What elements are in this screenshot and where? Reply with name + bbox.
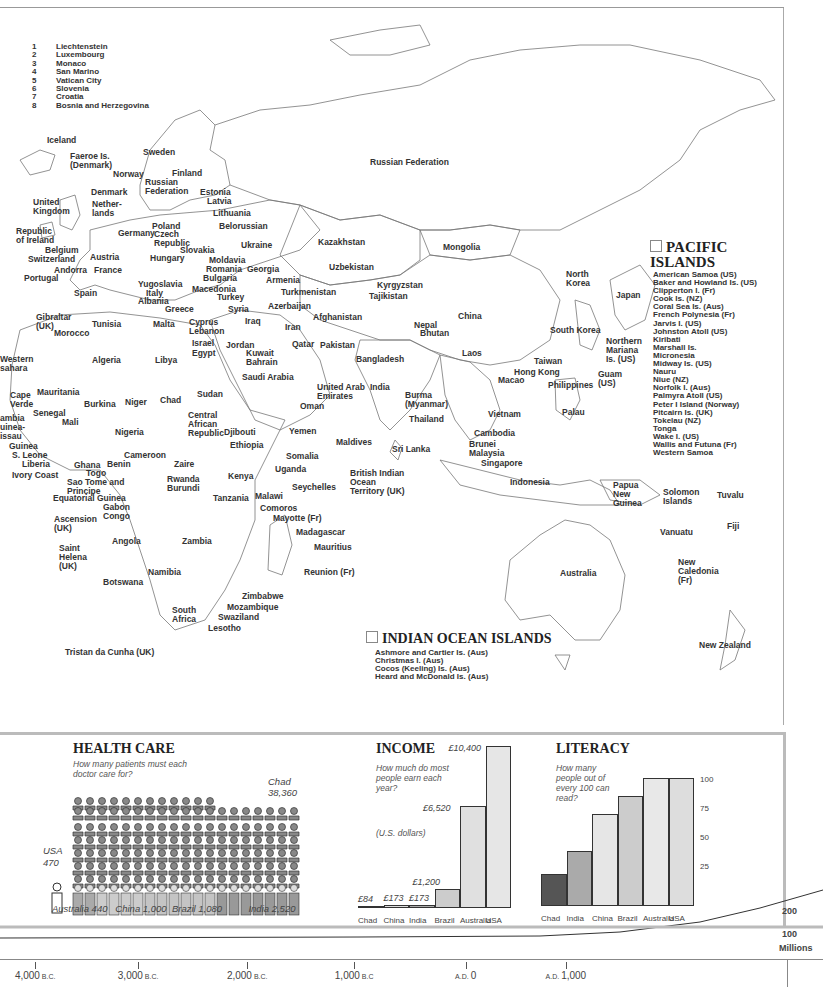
country-label: Saint Helena (UK)	[59, 544, 87, 571]
country-label: Vietnam	[488, 410, 521, 419]
country-label: Papua New Guinea	[613, 481, 642, 508]
country-label: Pakistan	[320, 341, 355, 350]
bar-value-label: £10,400	[449, 743, 482, 753]
country-label: Latvia	[207, 197, 232, 206]
country-label: Tanzania	[213, 494, 249, 503]
map-frame-top	[0, 7, 784, 8]
key-list-item: 6Slovenia	[32, 85, 149, 93]
country-label: Iceland	[47, 136, 76, 145]
country-label: Egypt	[192, 349, 216, 358]
country-label: New Caledonia (Fr)	[678, 558, 719, 585]
key-list-item: 8Bosnia and Herzegovina	[32, 102, 149, 110]
country-label: Armenia	[266, 276, 300, 285]
country-label: Nigeria	[115, 428, 144, 437]
country-label: France	[94, 266, 122, 275]
country-label: Zimbabwe	[242, 592, 284, 601]
country-label: Ukraine	[241, 241, 272, 250]
pacific-islands-list: American Samoa (US)Baker and Howland Is.…	[653, 271, 757, 457]
country-label: Singapore	[481, 459, 523, 468]
country-label: Turkmenistan	[281, 288, 336, 297]
country-label: Senegal	[33, 409, 66, 418]
country-label: Northern Mariana Is. (US)	[606, 337, 642, 364]
country-label: Belorussian	[219, 222, 268, 231]
country-label: Guam (US)	[598, 370, 622, 388]
country-label: Western sahara	[0, 355, 33, 373]
country-label: Liberia	[22, 460, 50, 469]
country-label: Morocco	[54, 329, 89, 338]
country-label: South Korea	[550, 326, 601, 335]
country-label: Bulgaria	[203, 274, 237, 283]
timeline-tick: 1,000 B.C	[335, 970, 374, 981]
country-label: Niger	[125, 398, 147, 407]
country-label: Ethiopia	[230, 441, 264, 450]
literacy-axis-tick: 75	[700, 804, 709, 813]
country-label: Bhutan	[420, 329, 449, 338]
country-label: Botswana	[103, 578, 143, 587]
map-frame-right	[783, 8, 784, 725]
timeline-tick: A.D. 1,000	[546, 970, 587, 981]
country-label: Ivory Coast	[12, 471, 58, 480]
country-label: Comoros	[260, 504, 297, 513]
country-label: Mozambique	[227, 603, 278, 612]
timeline-tick: 2,000 B.C.	[227, 970, 268, 981]
timeline-divider	[787, 959, 788, 987]
microstate-key: 1Liechtenstein2Luxembourg3Monaco4San Mar…	[32, 43, 149, 110]
country-label: Japan	[616, 291, 641, 300]
key-country-name: Bosnia and Herzegovina	[56, 102, 149, 110]
country-label: Mali	[62, 418, 79, 427]
country-label: Cambodia	[474, 429, 515, 438]
country-label: Seychelles	[292, 483, 336, 492]
country-label: Tristan da Cunha (UK)	[65, 648, 154, 657]
country-label: Fiji	[727, 522, 739, 531]
country-label: Slovakia	[180, 246, 215, 255]
legend-box-icon	[650, 240, 662, 252]
bar-value-label: £6,520	[423, 803, 451, 813]
country-label: Central African Republic	[188, 411, 224, 438]
country-label: Zambia	[182, 537, 212, 546]
timeline-tick: 4,000 B.C.	[15, 970, 56, 981]
country-label: Lesotho	[208, 624, 241, 633]
country-label: Kenya	[228, 472, 254, 481]
timeline-tick: 3,000 B.C.	[118, 970, 159, 981]
country-label: North Korea	[566, 270, 590, 288]
country-label: South Africa	[172, 606, 196, 624]
country-label: United Kingdom	[33, 198, 70, 216]
country-label: Russian Federation	[370, 158, 449, 167]
country-label: Mauritius	[314, 543, 352, 552]
country-label: United Arab Emirates	[317, 383, 365, 401]
indian-ocean-islands-title: INDIAN OCEAN ISLANDS	[366, 631, 552, 647]
country-label: Andorra	[54, 266, 87, 275]
country-label: ambia uinea- issau	[0, 414, 25, 441]
country-label: Norway	[113, 170, 144, 179]
country-label: Djibouti	[224, 428, 256, 437]
country-label: India	[370, 383, 390, 392]
country-label: Afghanistan	[313, 313, 362, 322]
country-label: Malta	[153, 320, 175, 329]
country-label: Sudan	[197, 390, 223, 399]
country-label: Uganda	[275, 465, 306, 474]
population-label-200: 200	[782, 906, 797, 916]
country-label: Cape Verde	[10, 391, 33, 409]
country-label: New Zealand	[699, 641, 751, 650]
country-label: Madagascar	[296, 528, 345, 537]
population-curve	[0, 880, 823, 940]
country-label: Georgia	[247, 265, 279, 274]
literacy-question: How many people out of every 100 can rea…	[556, 763, 616, 803]
country-label: Iraq	[245, 317, 261, 326]
country-label: Switzerland	[28, 255, 75, 264]
country-label: Burma (Myanmar)	[405, 391, 448, 409]
country-label: Tajikistan	[369, 292, 408, 301]
country-label: Germany	[118, 229, 155, 238]
literacy-title: LITERACY	[556, 741, 630, 757]
indian-ocean-islands-list: Ashmore and Cartier Is. (Aus)Christmas I…	[375, 649, 488, 681]
country-label: Vanuatu	[660, 528, 693, 537]
country-label: Angola	[112, 537, 141, 546]
country-label: Thailand	[409, 415, 444, 424]
key-list-item: 2Luxembourg	[32, 51, 149, 59]
country-label: Portugal	[24, 274, 58, 283]
country-label: Indonesia	[510, 478, 550, 487]
country-label: Uzbekistan	[329, 263, 374, 272]
country-label: Malawi	[255, 492, 283, 501]
country-label: Gabon Congo	[103, 503, 130, 521]
country-label: Algeria	[92, 356, 121, 365]
